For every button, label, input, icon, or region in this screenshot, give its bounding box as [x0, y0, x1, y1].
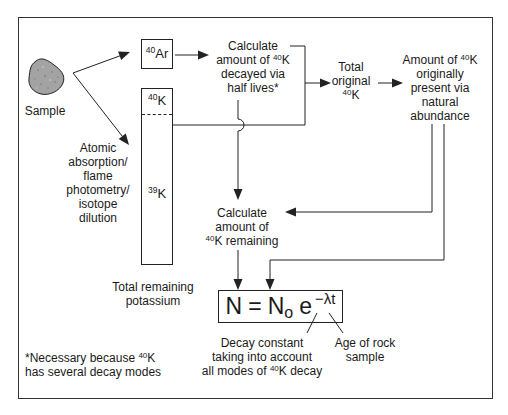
decayed-line: half lives*: [198, 81, 308, 95]
remaining-line: amount of: [192, 220, 292, 234]
argon-label: 40Ar: [142, 47, 172, 61]
mass-number: 40: [138, 351, 147, 360]
mass-number: 40: [273, 53, 282, 62]
arrow-sample-to-potassium: [73, 73, 129, 145]
argon-box: 40Ar: [141, 39, 173, 69]
formula-e: e: [299, 295, 312, 318]
formula-n0-subscript: o: [284, 301, 293, 324]
k-ar-dating-diagram: 40Ar 40K 39K Sample Atomic absorption/ f…: [0, 0, 508, 415]
annotation-line: Age of rock: [325, 336, 405, 350]
potassium-column: 40K 39K: [141, 88, 173, 265]
sample-text: Sample: [15, 104, 75, 118]
arrow-remaining-to-formula: [234, 250, 243, 290]
arrow-sample-to-argon: [73, 52, 130, 73]
k39-label: 39K: [142, 187, 172, 201]
natural-line: Amount of 40K: [388, 53, 492, 67]
natural-line: natural: [388, 95, 492, 109]
natural-abundance-label: Amount of 40K originally present via nat…: [388, 53, 492, 123]
mass-number: 40: [206, 234, 215, 243]
calculate-decayed-label: Calculate amount of 40K decayed via half…: [198, 39, 308, 95]
decay-constant-annotation: Decay constant taking into account all m…: [192, 336, 332, 378]
remaining-line: 40K remaining: [192, 234, 292, 248]
footnote: *Necessary because 40K has several decay…: [25, 351, 175, 379]
annotation-line: all modes of 40K decay: [192, 364, 332, 378]
method-line: absorption/: [53, 155, 143, 169]
formula-equals: =: [248, 295, 261, 318]
text-segment: K decay: [279, 364, 322, 378]
arrow-natural-to-formula: [266, 124, 445, 290]
text-segment: all modes of: [202, 364, 270, 378]
natural-line: abundance: [388, 109, 492, 123]
caption-line: potassium: [98, 294, 208, 308]
method-line: dilution: [53, 211, 143, 225]
text-segment: *Necessary because: [25, 351, 138, 365]
annotation-line: Decay constant: [192, 336, 332, 350]
sample-rock-icon: [29, 59, 64, 95]
decayed-line: Calculate: [198, 39, 308, 53]
arrow-decayed-to-remaining: [234, 100, 245, 200]
mass-number: 40: [461, 53, 470, 62]
total-line: Total: [321, 60, 381, 74]
method-line: isotope: [53, 197, 143, 211]
mass-number: 40: [343, 88, 352, 97]
sample-label: Sample: [15, 104, 75, 118]
mass-number: 40: [270, 364, 279, 373]
remaining-line: Calculate: [192, 206, 292, 220]
decayed-line: amount of 40K: [198, 53, 308, 67]
measurement-method-label: Atomic absorption/ flame photometry/ iso…: [53, 141, 143, 225]
argon-symbol: Ar: [155, 46, 168, 61]
natural-line: originally: [388, 67, 492, 81]
text-segment: K remaining: [214, 234, 278, 248]
text-segment: K: [147, 351, 155, 365]
annotation-line: taking into account: [192, 350, 332, 364]
method-line: photometry/: [53, 183, 143, 197]
text-segment: K: [351, 88, 359, 102]
k40-symbol: K: [157, 93, 166, 108]
k40-label: 40K: [142, 94, 172, 108]
method-line: Atomic: [53, 141, 143, 155]
total-original-label: Total original 40K: [321, 60, 381, 102]
annotation-line: sample: [325, 350, 405, 364]
age-annotation: Age of rock sample: [325, 336, 405, 364]
text-segment: amount of: [216, 53, 273, 67]
formula-n: N: [226, 295, 243, 318]
formula-exponent: −λt: [315, 287, 335, 310]
k39-mass-number: 39: [148, 185, 157, 195]
total-line: 40K: [321, 88, 381, 102]
caption-line: Total remaining: [98, 280, 208, 294]
k40-mass-number: 40: [148, 92, 157, 102]
method-line: flame: [53, 169, 143, 183]
footnote-line: has several decay modes: [25, 365, 175, 379]
decayed-line: decayed via: [198, 67, 308, 81]
footnote-line: *Necessary because 40K: [25, 351, 175, 365]
natural-line: present via: [388, 81, 492, 95]
formula-n0: N: [268, 295, 285, 318]
total-line: original: [321, 74, 381, 88]
isotope-divider: [142, 114, 172, 115]
text-segment: K: [469, 53, 477, 67]
arrow-natural-to-remaining: [285, 124, 432, 217]
calculate-remaining-label: Calculate amount of 40K remaining: [192, 206, 292, 248]
argon-mass-number: 40: [146, 45, 155, 55]
decay-equation-box: N = No e−λt: [218, 290, 343, 323]
text-segment: Amount of: [403, 53, 461, 67]
text-segment: K: [282, 53, 290, 67]
k39-symbol: K: [157, 186, 166, 201]
total-remaining-potassium-label: Total remaining potassium: [98, 280, 208, 308]
